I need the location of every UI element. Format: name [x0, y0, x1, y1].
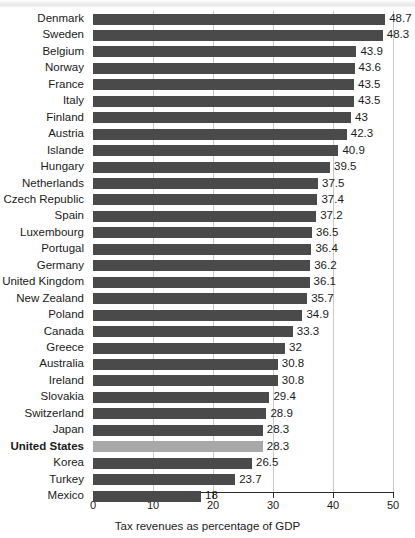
bar	[93, 211, 316, 222]
bar	[93, 260, 310, 271]
category-label: Poland	[48, 308, 84, 321]
bar-row: Luxembourg36.5	[0, 225, 415, 241]
category-label: Spain	[55, 209, 84, 222]
category-label: France	[48, 78, 84, 91]
bar-value-label: 43.9	[360, 45, 382, 58]
bar-row: Canada33.3	[0, 324, 415, 340]
bar-row: New Zealand35.7	[0, 291, 415, 307]
bar	[93, 14, 385, 25]
bar	[93, 310, 302, 321]
bar-value-label: 48.3	[387, 28, 409, 41]
category-label: New Zealand	[16, 292, 84, 305]
bar	[93, 408, 266, 419]
bar-row: Italy43.5	[0, 93, 415, 109]
bar-row: Netherlands37.5	[0, 176, 415, 192]
bar-value-label: 30.8	[282, 357, 304, 370]
bar-row: Australia30.8	[0, 356, 415, 372]
bar	[93, 178, 318, 189]
bar-value-label: 32	[289, 341, 302, 354]
bar	[93, 79, 354, 90]
bar-value-label: 34.9	[306, 308, 328, 321]
bar-row: United States28.3	[0, 439, 415, 455]
category-label: Finland	[46, 111, 84, 124]
bar-row: Belgium43.9	[0, 44, 415, 60]
bar	[93, 441, 263, 452]
bar-row: Islande40.9	[0, 143, 415, 159]
bar-value-label: 36.2	[314, 259, 336, 272]
bar	[93, 359, 278, 370]
bar-value-label: 36.5	[316, 226, 338, 239]
bar	[93, 491, 201, 502]
category-label: Denmark	[37, 12, 84, 25]
bar-row: Japan28.3	[0, 422, 415, 438]
bar	[93, 277, 310, 288]
bar-value-label: 23.7	[239, 473, 261, 486]
category-label: Canada	[44, 325, 84, 338]
bar-row: Ireland30.8	[0, 373, 415, 389]
bar-value-label: 40.9	[342, 144, 364, 157]
category-label: United Kingdom	[2, 275, 84, 288]
bar-value-label: 28.9	[270, 407, 292, 420]
bar	[93, 392, 269, 403]
bar	[93, 458, 252, 469]
horizontal-bar-chart: Tax revenues as percentage of GDP 010203…	[0, 0, 415, 538]
category-label: Switzerland	[25, 407, 84, 420]
category-label: Germany	[37, 259, 84, 272]
bar-row: Korea26.5	[0, 455, 415, 471]
bar	[93, 227, 312, 238]
bar-value-label: 35.7	[311, 292, 333, 305]
category-label: Australia	[39, 357, 84, 370]
category-label: Belgium	[42, 45, 84, 58]
bar-value-label: 30.8	[282, 374, 304, 387]
category-label: Ireland	[49, 374, 84, 387]
bar-value-label: 43.5	[358, 78, 380, 91]
category-label: Netherlands	[22, 177, 84, 190]
bar	[93, 112, 351, 123]
bar-row: Greece32	[0, 340, 415, 356]
bar-value-label: 43.6	[359, 61, 381, 74]
bar	[93, 145, 338, 156]
bar-value-label: 18	[205, 489, 218, 502]
bar-row: Denmark48.7	[0, 11, 415, 27]
bar-row: Finland43	[0, 110, 415, 126]
category-label: Islande	[47, 144, 84, 157]
bar-row: Austria42.3	[0, 126, 415, 142]
bar-value-label: 36.4	[315, 242, 337, 255]
bar-row: Turkey23.7	[0, 472, 415, 488]
bar-row: Spain37.2	[0, 208, 415, 224]
category-label: Slovakia	[41, 390, 84, 403]
category-label: Japan	[53, 423, 84, 436]
bar-row: Norway43.6	[0, 60, 415, 76]
bar	[93, 96, 354, 107]
bar	[93, 129, 347, 140]
category-label: Korea	[53, 456, 84, 469]
bar-row: Hungary39.5	[0, 159, 415, 175]
bar	[93, 293, 307, 304]
bar	[93, 46, 356, 57]
bar	[93, 425, 263, 436]
bar	[93, 375, 278, 386]
category-label: Greece	[46, 341, 84, 354]
bar-value-label: 36.1	[314, 275, 336, 288]
bar-value-label: 33.3	[297, 325, 319, 338]
bar-value-label: 43.5	[358, 94, 380, 107]
bar-row: United Kingdom36.1	[0, 274, 415, 290]
category-label: Austria	[48, 127, 84, 140]
bar-value-label: 28.3	[267, 423, 289, 436]
bar-row: Czech Republic37.4	[0, 192, 415, 208]
bar-value-label: 43	[355, 111, 368, 124]
category-label: Czech Republic	[3, 193, 84, 206]
x-axis-title: Tax revenues as percentage of GDP	[0, 519, 415, 533]
category-label: Mexico	[48, 489, 84, 502]
bar-row: Slovakia29.4	[0, 389, 415, 405]
bar	[93, 162, 330, 173]
bar-value-label: 26.5	[256, 456, 278, 469]
bar-value-label: 42.3	[351, 127, 373, 140]
bar-row: Germany36.2	[0, 258, 415, 274]
category-label: Portugal	[41, 242, 84, 255]
category-label: Hungary	[41, 160, 84, 173]
bar	[93, 194, 317, 205]
bar-value-label: 37.2	[320, 209, 342, 222]
bar-value-label: 39.5	[334, 160, 356, 173]
bar-row: Portugal36.4	[0, 241, 415, 257]
